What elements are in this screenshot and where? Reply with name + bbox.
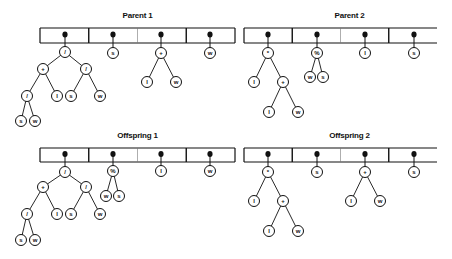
tree-node-divide: / [22, 91, 33, 102]
slot-dot-icon [158, 32, 163, 38]
gene-slot-4: w [205, 151, 216, 177]
tree-node-w: w [375, 196, 386, 207]
node-label: w [97, 211, 103, 217]
tree-node-w: w [30, 116, 41, 127]
slot-dot-icon [314, 151, 319, 157]
genetic-programming-crossover-diagram: Parent 1sw/l+sw//slw+wParent 2llw+*ws%ls… [0, 0, 452, 259]
node-label: % [314, 50, 320, 56]
node-label: w [97, 93, 103, 99]
tree-node-s: s [312, 167, 323, 178]
chromosome-box [40, 28, 235, 43]
tree-node-divide: / [81, 64, 92, 75]
tree-node-divide: / [22, 209, 33, 220]
slot-dot-icon [411, 32, 416, 38]
tree-node-s: s [114, 191, 125, 202]
tree-node-s: s [16, 116, 27, 127]
slot-dot-icon [362, 32, 367, 38]
node-label: + [41, 66, 45, 72]
node-label: w [307, 74, 313, 80]
tree-node-plus: + [360, 167, 371, 178]
node-label: w [207, 168, 213, 174]
tree-node-l: l [156, 166, 167, 177]
slot-dot-icon [158, 151, 163, 157]
tree-node-l: l [360, 48, 371, 59]
tree-node-l: l [52, 209, 63, 220]
slot-dot-icon [314, 32, 319, 38]
slot-dot-icon [265, 32, 270, 38]
tree-node-multiply: * [263, 48, 274, 59]
tree-node-modulo: % [108, 166, 119, 177]
tree-node-l: l [249, 196, 260, 207]
tree-node-w: w [101, 191, 112, 202]
slot-dot-icon [411, 151, 416, 157]
chromosome-box [244, 28, 437, 43]
tree-node-l: l [346, 196, 357, 207]
tree-node-l: l [264, 107, 275, 118]
tree-node-plus: + [278, 77, 289, 88]
gene-slot-4: s [409, 151, 420, 178]
node-label: w [207, 50, 213, 56]
gene-slot-3: l [156, 151, 167, 177]
tree-node-w: w [293, 107, 304, 118]
tree-node-plus: + [278, 196, 289, 207]
gene-slot-2: ws% [305, 32, 329, 83]
gene-slot-3: lw+ [346, 151, 386, 207]
chromosome-box [244, 148, 437, 162]
tree-node-s: s [108, 48, 119, 59]
node-label: + [281, 198, 285, 204]
node-label: w [103, 193, 109, 199]
gene-slot-2: s [312, 151, 323, 178]
tree-node-w: w [293, 226, 304, 237]
tree-node-modulo: % [312, 48, 323, 59]
tree-node-w: w [30, 235, 41, 246]
gene-slot-1: llw+* [249, 32, 304, 118]
tree-node-l: l [142, 77, 153, 88]
node-label: + [159, 50, 163, 56]
gene-slot-1: llw+* [249, 151, 304, 237]
tree-node-s: s [409, 167, 420, 178]
tree-node-l: l [249, 77, 260, 88]
panel-offspring-1: Offspring 1sw/l+sw//ws%lw [16, 131, 236, 246]
node-label: w [295, 109, 301, 115]
gene-slot-3: lw+ [142, 32, 182, 88]
gene-slot-2: ws% [101, 151, 125, 202]
slot-dot-icon [110, 151, 115, 157]
panel-title: Offspring 2 [329, 131, 370, 140]
node-label: w [32, 118, 38, 124]
tree-node-s: s [66, 209, 77, 220]
tree-node-s: s [318, 72, 329, 83]
panel-parent-2: Parent 2llw+*ws%ls [244, 11, 437, 118]
slot-dot-icon [62, 151, 67, 157]
panel-title: Parent 1 [123, 11, 154, 20]
slot-dot-icon [110, 32, 115, 38]
panel-offspring-2: Offspring 2llw+*slw+s [244, 131, 437, 237]
node-label: w [377, 198, 383, 204]
tree-node-plus: + [38, 182, 49, 193]
node-label: w [173, 79, 179, 85]
tree-node-divide: / [60, 167, 71, 178]
tree-node-divide: / [81, 182, 92, 193]
tree-node-s: s [66, 91, 77, 102]
tree-node-l: l [264, 226, 275, 237]
tree-node-w: w [205, 166, 216, 177]
gene-slot-4: s [409, 32, 420, 59]
node-label: % [110, 168, 116, 174]
tree-node-w: w [171, 77, 182, 88]
tree-node-w: w [95, 91, 106, 102]
gene-slot-1: sw/l+sw// [16, 151, 106, 246]
tree-node-multiply: * [263, 167, 274, 178]
gene-slot-3: l [360, 32, 371, 59]
node-label: + [363, 169, 367, 175]
tree-node-w: w [205, 48, 216, 59]
panel-title: Parent 2 [335, 11, 366, 20]
gene-slot-1: sw/l+sw// [16, 32, 106, 127]
chromosome-box [40, 148, 235, 162]
node-label: w [32, 237, 38, 243]
tree-node-w: w [305, 72, 316, 83]
tree-node-plus: + [156, 48, 167, 59]
tree-node-s: s [409, 48, 420, 59]
panel-title: Offspring 1 [117, 131, 158, 140]
tree-node-w: w [95, 209, 106, 220]
tree-node-s: s [16, 235, 27, 246]
panel-parent-1: Parent 1sw/l+sw//slw+w [16, 11, 236, 127]
